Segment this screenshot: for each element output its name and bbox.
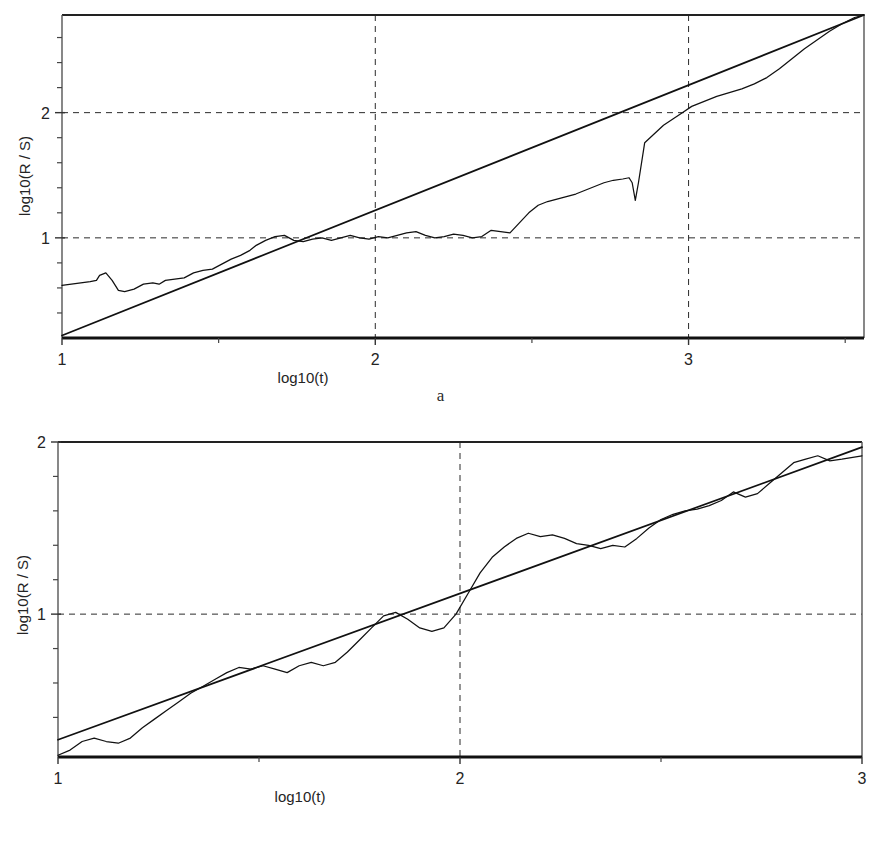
y-axis-title: log10(R / S) xyxy=(16,136,33,216)
panel-a-caption: a xyxy=(0,386,881,406)
x-tick-label: 1 xyxy=(54,770,63,787)
x-tick-label: 3 xyxy=(858,770,867,787)
x-tick-label: 3 xyxy=(684,351,693,368)
y-tick-label: 1 xyxy=(37,606,46,623)
figure-container: 12312log10(t)log10(R / S) a 12312log10(t… xyxy=(0,0,881,863)
x-tick-label: 2 xyxy=(371,351,380,368)
chart-panel-a: 12312log10(t)log10(R / S) a xyxy=(0,0,881,420)
gridlines xyxy=(58,442,862,757)
chart-a-svg: 12312log10(t)log10(R / S) xyxy=(0,0,881,420)
y-axis-title: log10(R / S) xyxy=(14,555,31,635)
empirical-curve-series xyxy=(62,15,864,292)
x-axis-title: log10(t) xyxy=(275,788,326,805)
x-tick-label: 1 xyxy=(58,351,67,368)
x-axis-title: log10(t) xyxy=(278,369,329,386)
chart-panel-b: 12312log10(t)log10(R / S) b xyxy=(0,420,881,863)
y-tick-label: 1 xyxy=(41,230,50,247)
x-tick-label: 2 xyxy=(456,770,465,787)
fitted-line-series xyxy=(62,15,864,336)
axis-ticks xyxy=(55,38,845,345)
chart-b-svg: 12312log10(t)log10(R / S) xyxy=(0,420,881,863)
y-tick-label: 2 xyxy=(37,434,46,451)
axis-ticks xyxy=(51,442,862,764)
axis-tick-labels: 12312 xyxy=(41,105,693,368)
axis-tick-labels: 12312 xyxy=(37,434,866,787)
y-tick-label: 2 xyxy=(41,105,50,122)
